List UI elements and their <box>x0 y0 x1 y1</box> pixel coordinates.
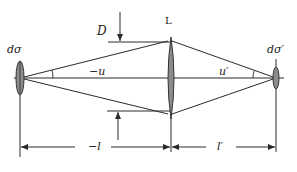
object-distance-label: −l <box>88 141 101 152</box>
lens <box>168 37 174 119</box>
image-distance-label: l′ <box>217 141 223 152</box>
image-element <box>273 67 279 89</box>
image-angle-label: u′ <box>219 66 229 77</box>
object-element-label: dσ <box>7 44 22 55</box>
object-angle-arc <box>52 70 53 78</box>
marginal-ray-lower-object <box>20 78 168 114</box>
diagram-canvas <box>0 0 297 172</box>
optics-diagram: dσ D L −u u′ dσ′ −l l′ <box>0 0 297 172</box>
lens-label: L <box>165 16 172 26</box>
image-angle-arc <box>253 71 254 78</box>
object-angle-label: −u <box>89 66 105 77</box>
image-element-label: dσ′ <box>267 44 284 55</box>
marginal-ray-lower-image <box>172 78 276 114</box>
aperture-label: D <box>97 25 107 37</box>
